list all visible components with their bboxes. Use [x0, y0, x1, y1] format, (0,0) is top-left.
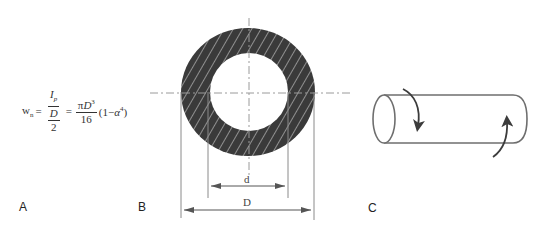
equals-sign-1: =	[35, 105, 41, 117]
inner-diameter-label: d	[244, 173, 250, 185]
equals-sign-2: =	[66, 105, 72, 117]
formula-lhs: wn	[22, 104, 33, 119]
alpha-factor: (1−α4)	[99, 105, 127, 118]
fraction-denominator: D 2	[46, 107, 62, 134]
fraction-numerator: Ip	[48, 88, 59, 107]
factor-close: )	[124, 105, 128, 117]
outer-diameter-label: D	[243, 196, 251, 208]
factor-open: (1−	[99, 105, 114, 117]
lhs-subscript: n	[30, 111, 34, 119]
fraction-numerator-pi: πD3	[76, 96, 97, 113]
fraction-ip-over-half-d: Ip D 2	[46, 88, 62, 134]
fraction-pi-d-cubed-over-16: πD3 16	[76, 96, 97, 126]
lhs-symbol: w	[22, 104, 30, 116]
panel-label-b: B	[138, 200, 146, 214]
panel-label-c: C	[368, 201, 377, 215]
cube-exponent: 3	[91, 98, 95, 106]
denominator-d: D	[48, 107, 60, 121]
denominator-two: 2	[51, 121, 57, 134]
panel-label-a: A	[19, 200, 27, 214]
ip-subscript: p	[54, 95, 58, 103]
cylinder-left-face	[373, 95, 395, 143]
sixteen-denominator: 16	[79, 113, 94, 126]
section-modulus-formula: wn = Ip D 2 = πD3 16 (1−α4)	[22, 88, 127, 134]
